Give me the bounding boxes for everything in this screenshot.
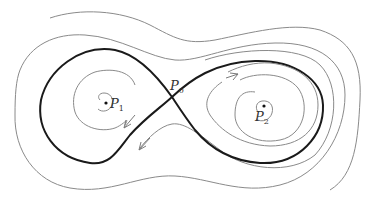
right-lobe-flow-curve [207,63,318,146]
separatrix-figure-eight [40,49,323,163]
label-p2: P2 [255,110,269,126]
p1-point [104,101,107,104]
diagram-svg [0,0,372,206]
flow-arrow-lower-center [139,138,150,150]
p2-point [262,104,265,107]
label-p0: P0 [170,79,184,95]
label-p1: P1 [110,97,124,113]
outer-closed-level-curve [15,35,345,190]
right-inner-level-curve [235,75,304,141]
phase-portrait-diagram: P0 P1 P2 [0,0,372,206]
flow-arrow-left-lobe [124,115,135,128]
flow-arrow-upper-right [226,73,238,80]
